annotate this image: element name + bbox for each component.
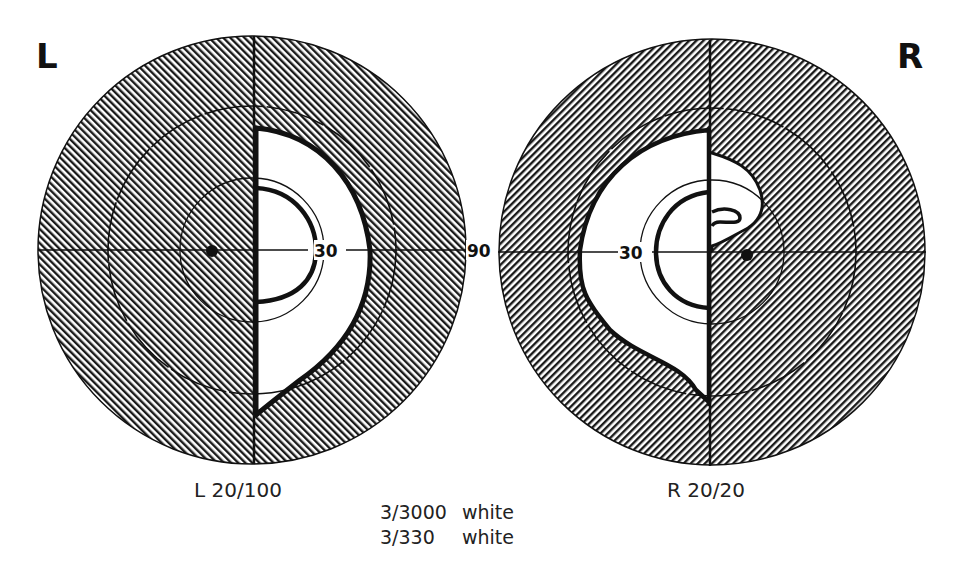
right-30-label: 30 [619,243,643,263]
legend-stimulus: 3/330 [380,525,462,550]
stimulus-legend: 3/3000 white 3/330 white [380,500,514,550]
right-inner-isopter-hook [712,209,740,226]
right-visual-field: 30 [498,39,926,466]
left-acuity-caption: L 20/100 [194,478,282,502]
left-30-label: 30 [314,241,338,261]
right-blind-spot [741,249,753,261]
legend-color: white [462,525,514,550]
left-blind-spot [206,245,218,257]
legend-row: 3/330 white [380,525,514,550]
visual-field-diagram: 30 90 30 [0,0,957,582]
left-visual-field: 30 [38,36,466,464]
label-90: 90 [467,241,491,261]
left-eye-letter: L [36,36,58,76]
right-acuity-caption: R 20/20 [667,478,745,502]
legend-stimulus: 3/3000 [380,500,462,525]
legend-color: white [462,500,514,525]
right-eye-letter: R [897,36,923,76]
legend-row: 3/3000 white [380,500,514,525]
